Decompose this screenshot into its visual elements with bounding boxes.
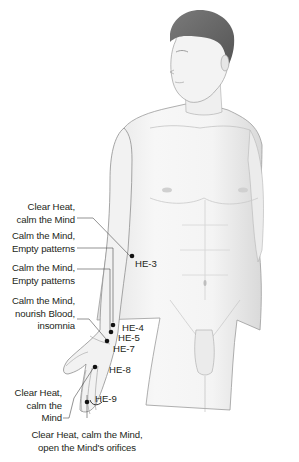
label-line: Clear Heat, <box>17 201 75 214</box>
label-line: insomnia <box>12 320 75 333</box>
annotation-he8-label: Clear Heat, calm the Mind <box>15 387 62 425</box>
annotation-he4-label: Calm the Mind, Empty patterns <box>12 230 75 255</box>
label-line: Clear Heat, <box>15 387 62 400</box>
annotation-he9-label: Clear Heat, calm the Mind, open the Mind… <box>12 429 162 454</box>
label-line: open the Mind's orifices <box>12 442 162 455</box>
acupuncture-diagram: Clear Heat, calm the Mind Calm the Mind,… <box>0 0 299 462</box>
label-line: Empty patterns <box>12 275 75 288</box>
annotation-he5-label: Calm the Mind, Empty patterns <box>12 262 75 287</box>
label-line: Calm the Mind, <box>12 262 75 275</box>
point-label-he8: HE-8 <box>109 364 131 375</box>
point-label-he5: HE-5 <box>118 332 140 343</box>
label-line: Calm the Mind, <box>12 295 75 308</box>
label-line: Calm the Mind, <box>12 230 75 243</box>
annotation-he3-label: Clear Heat, calm the Mind <box>17 201 75 226</box>
label-line: nourish Blood, <box>12 308 75 321</box>
label-line: calm the <box>15 400 62 413</box>
label-line: calm the Mind <box>17 214 75 227</box>
annotation-he7-label: Calm the Mind, nourish Blood, insomnia <box>12 295 75 333</box>
point-label-he3: HE-3 <box>135 258 157 269</box>
label-line: Mind <box>15 412 62 425</box>
label-line: Empty patterns <box>12 243 75 256</box>
point-label-he9: HE-9 <box>95 393 117 404</box>
point-label-he7: HE-7 <box>113 343 135 354</box>
label-line: Clear Heat, calm the Mind, <box>12 429 162 442</box>
